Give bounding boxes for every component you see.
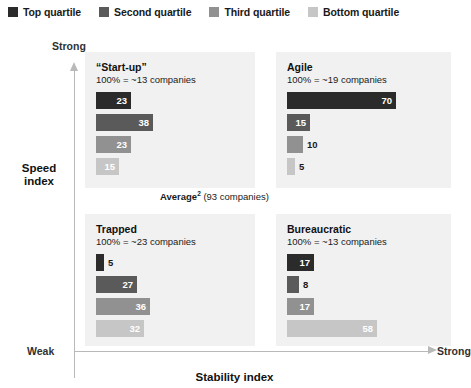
- quadrant-bar-group: 5273632: [96, 254, 247, 342]
- bar-row: 70: [287, 92, 443, 109]
- y-axis-arrow-icon: [70, 62, 78, 71]
- quadrant-title: “Start-up”: [96, 61, 147, 73]
- bar-value-label: 36: [135, 301, 146, 312]
- bar-second-quartile: [287, 276, 299, 293]
- bar-row: 5: [96, 254, 247, 271]
- bar-row: 32: [96, 320, 247, 337]
- quadrant-subtitle: 100% = ~19 companies: [287, 74, 387, 85]
- legend-item-label: Second quartile: [114, 6, 191, 18]
- legend-item-label: Third quartile: [224, 6, 290, 18]
- average-detail: (93 companies): [203, 191, 268, 202]
- bar-row: 38: [96, 114, 247, 131]
- legend: Top quartileSecond quartileThird quartil…: [8, 4, 463, 20]
- bar-value-label: 32: [129, 323, 140, 334]
- x-axis-line: [74, 351, 429, 352]
- bar-top-quartile: 17: [287, 254, 314, 271]
- y-axis-line: [74, 70, 75, 378]
- quadrant-chart: Strong Weak Strong Speed index Stability…: [0, 26, 469, 388]
- bar-value-label: 10: [307, 136, 318, 153]
- bar-value-label: 23: [116, 139, 127, 150]
- quadrant-subtitle: 100% = ~13 companies: [96, 74, 196, 85]
- bar-second-quartile: 15: [287, 114, 310, 131]
- average-annotation: Average2 (93 companies): [160, 190, 269, 202]
- legend-item-label: Top quartile: [23, 6, 81, 18]
- legend-swatch-icon: [308, 7, 318, 17]
- bar-row: 10: [287, 136, 443, 153]
- legend-swatch-icon: [99, 7, 109, 17]
- bar-second-quartile: 27: [96, 276, 137, 293]
- legend-item: Second quartile: [99, 6, 191, 18]
- bar-bottom-quartile: 58: [287, 320, 377, 337]
- x-axis-high-label: Strong: [437, 345, 471, 357]
- bar-row: 8: [287, 276, 443, 293]
- bar-value-label: 17: [299, 301, 310, 312]
- bar-top-quartile: [96, 254, 104, 271]
- legend-swatch-icon: [209, 7, 219, 17]
- bar-top-quartile: 70: [287, 92, 396, 109]
- bar-second-quartile: 38: [96, 114, 153, 131]
- y-axis-title-line2: index: [24, 175, 54, 187]
- quadrant-title: Bureaucratic: [287, 223, 351, 235]
- x-axis-title: Stability index: [0, 371, 469, 383]
- bar-row: 17: [287, 254, 443, 271]
- bar-row: 15: [96, 158, 247, 175]
- bar-row: 27: [96, 276, 247, 293]
- bar-row: 23: [96, 92, 247, 109]
- bar-bottom-quartile: 15: [96, 158, 119, 175]
- bar-value-label: 23: [116, 95, 127, 106]
- bar-row: 15: [287, 114, 443, 131]
- bar-value-label: 5: [299, 158, 304, 175]
- quadrant-panel-bureaucratic: Bureaucratic100% = ~13 companies1781758: [276, 214, 451, 346]
- bar-value-label: 15: [104, 161, 115, 172]
- quadrant-bar-group: 23382315: [96, 92, 247, 180]
- bar-value-label: 8: [303, 276, 308, 293]
- bar-row: 36: [96, 298, 247, 315]
- bar-row: 23: [96, 136, 247, 153]
- bar-value-label: 17: [299, 257, 310, 268]
- bar-value-label: 5: [108, 254, 113, 271]
- average-footnote-marker: 2: [197, 190, 201, 197]
- bar-value-label: 58: [362, 323, 373, 334]
- bar-value-label: 27: [122, 279, 133, 290]
- quadrant-bar-group: 7015105: [287, 92, 443, 180]
- y-axis-title: Speed index: [10, 162, 68, 188]
- legend-swatch-icon: [8, 7, 18, 17]
- bar-third-quartile: 17: [287, 298, 314, 315]
- legend-item: Third quartile: [209, 6, 290, 18]
- quadrant-panel-trapped: Trapped100% = ~23 companies5273632: [85, 214, 255, 346]
- bar-value-label: 15: [295, 117, 306, 128]
- bar-row: 17: [287, 298, 443, 315]
- quadrant-title: Trapped: [96, 223, 137, 235]
- bar-third-quartile: [287, 136, 303, 153]
- quadrant-subtitle: 100% = ~13 companies: [287, 236, 387, 247]
- bar-row: 5: [287, 158, 443, 175]
- quadrant-bar-group: 1781758: [287, 254, 443, 342]
- bar-bottom-quartile: [287, 158, 295, 175]
- quadrant-title: Agile: [287, 61, 313, 73]
- quadrant-panel-startup: “Start-up”100% = ~13 companies23382315: [85, 52, 255, 188]
- x-axis-arrow-icon: [428, 346, 437, 354]
- legend-item-label: Bottom quartile: [323, 6, 399, 18]
- bar-value-label: 70: [381, 95, 392, 106]
- bar-third-quartile: 23: [96, 136, 131, 153]
- quadrant-subtitle: 100% = ~23 companies: [96, 236, 196, 247]
- bar-third-quartile: 36: [96, 298, 150, 315]
- average-label: Average: [160, 191, 197, 202]
- y-axis-high-label: Strong: [52, 40, 86, 52]
- quadrant-panel-agile: Agile100% = ~19 companies7015105: [276, 52, 451, 188]
- bar-bottom-quartile: 32: [96, 320, 144, 337]
- bar-row: 58: [287, 320, 443, 337]
- bar-value-label: 38: [138, 117, 149, 128]
- y-axis-title-line1: Speed: [22, 162, 57, 174]
- x-axis-low-label: Weak: [27, 345, 54, 357]
- legend-item: Top quartile: [8, 6, 81, 18]
- bar-top-quartile: 23: [96, 92, 131, 109]
- legend-item: Bottom quartile: [308, 6, 399, 18]
